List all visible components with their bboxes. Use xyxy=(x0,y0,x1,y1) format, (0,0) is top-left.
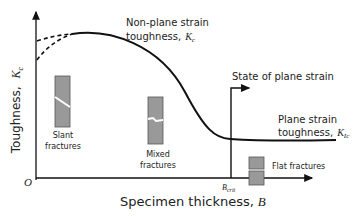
origin-label: O xyxy=(24,176,32,188)
non-plane-label-2: toughness,Kc xyxy=(126,31,196,44)
b-crit-label: Bcrit xyxy=(222,183,236,193)
plane-strain-boundary xyxy=(231,88,249,178)
flat-specimen xyxy=(249,157,264,185)
flat-label: Flat fractures xyxy=(272,162,325,171)
toughness-diagram: O Toughness,Kc Specimen thickness,B Bcri… xyxy=(0,0,356,216)
non-plane-label: Non-plane strain xyxy=(126,17,209,28)
slant-specimen xyxy=(55,76,70,127)
x-axis-label: Specimen thickness,B xyxy=(120,194,266,209)
y-axis-label: Toughness,Kc xyxy=(9,66,25,154)
plane-strain-label-2: toughness,KIc xyxy=(278,127,350,140)
dashed-curve-upper xyxy=(37,34,72,41)
svg-text:Toughness,Kc: Toughness,Kc xyxy=(9,66,25,154)
dashed-curve-lower xyxy=(37,34,72,60)
plane-strain-label: Plane strain xyxy=(278,114,337,125)
slant-label-2: fractures xyxy=(45,142,81,151)
mixed-specimen xyxy=(148,97,163,144)
mixed-label: Mixed xyxy=(146,150,170,159)
plane-state-label: State of plane strain xyxy=(232,71,334,82)
mixed-label-2: fractures xyxy=(140,161,176,170)
slant-label: Slant xyxy=(53,131,73,140)
